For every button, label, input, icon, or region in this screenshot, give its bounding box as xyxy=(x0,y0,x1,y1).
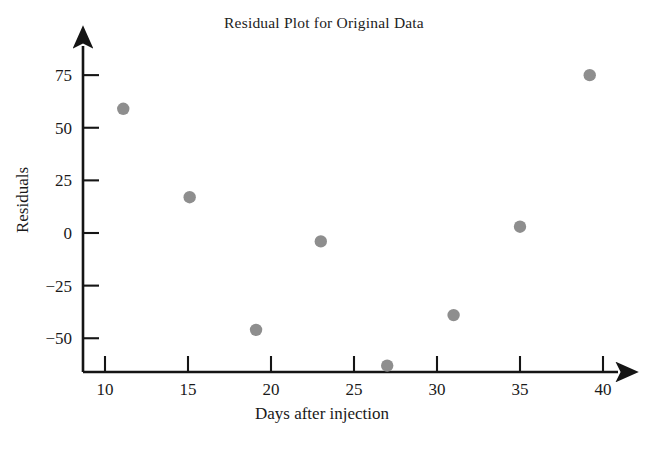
y-tick-label: 0 xyxy=(64,224,73,243)
x-tick-label: 35 xyxy=(512,380,529,399)
x-tick-label: 20 xyxy=(263,380,280,399)
data-point xyxy=(315,235,327,247)
x-tick-label: 30 xyxy=(429,380,446,399)
y-tick-label: 50 xyxy=(55,119,72,138)
x-axis-label: Days after injection xyxy=(255,404,390,423)
data-point xyxy=(381,359,393,371)
y-tick-label: 25 xyxy=(55,171,72,190)
y-tick-label: −50 xyxy=(45,329,72,348)
data-point xyxy=(447,309,459,321)
data-point xyxy=(514,220,526,232)
data-point xyxy=(250,324,262,336)
residual-plot-figure: Residual Plot for Original Data −50−2502… xyxy=(0,0,648,456)
x-tick-label: 40 xyxy=(595,380,612,399)
y-tick-label: 75 xyxy=(55,66,72,85)
scatter-plot-canvas: −50−250255075 10152025303540 Days after … xyxy=(0,0,648,456)
data-points-layer xyxy=(117,69,596,372)
data-point xyxy=(117,103,129,115)
y-axis-ticks: −50−250255075 xyxy=(45,66,99,348)
x-axis-ticks: 10152025303540 xyxy=(97,356,612,399)
y-tick-label: −25 xyxy=(45,277,72,296)
y-axis-label: Residuals xyxy=(13,167,32,233)
x-tick-label: 25 xyxy=(346,380,363,399)
data-point xyxy=(183,191,195,203)
x-tick-label: 15 xyxy=(180,380,197,399)
data-point xyxy=(584,69,596,81)
x-tick-label: 10 xyxy=(97,380,114,399)
